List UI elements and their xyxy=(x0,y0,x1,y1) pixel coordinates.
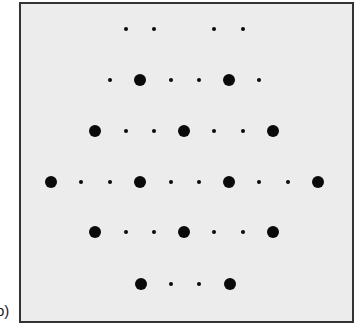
bright-spot xyxy=(89,125,101,137)
faint-spot xyxy=(124,27,128,31)
faint-spot xyxy=(124,129,128,133)
faint-spot xyxy=(212,27,216,31)
faint-spot xyxy=(197,78,201,82)
faint-spot xyxy=(124,230,128,234)
bright-spot xyxy=(178,226,190,238)
bright-spot xyxy=(267,125,279,137)
faint-spot xyxy=(286,180,290,184)
faint-spot xyxy=(79,180,83,184)
bright-spot xyxy=(223,176,235,188)
faint-spot xyxy=(197,180,201,184)
bright-spot xyxy=(178,125,190,137)
faint-spot xyxy=(169,282,173,286)
bright-spot xyxy=(224,278,236,290)
bright-spot xyxy=(89,226,101,238)
bright-spot xyxy=(134,74,146,86)
bright-spot xyxy=(45,176,57,188)
faint-spot xyxy=(241,230,245,234)
faint-spot xyxy=(241,27,245,31)
diffraction-pattern-frame xyxy=(19,2,354,323)
faint-spot xyxy=(152,230,156,234)
faint-spot xyxy=(108,180,112,184)
faint-spot xyxy=(257,180,261,184)
faint-spot xyxy=(108,78,112,82)
faint-spot xyxy=(152,129,156,133)
panel-label: b) xyxy=(0,302,9,320)
bright-spot xyxy=(267,226,279,238)
bright-spot xyxy=(134,176,146,188)
bright-spot xyxy=(223,74,235,86)
bright-spot xyxy=(135,278,147,290)
faint-spot xyxy=(152,27,156,31)
bright-spot xyxy=(312,176,324,188)
faint-spot xyxy=(212,230,216,234)
faint-spot xyxy=(169,78,173,82)
faint-spot xyxy=(212,129,216,133)
faint-spot xyxy=(169,180,173,184)
faint-spot xyxy=(241,129,245,133)
faint-spot xyxy=(197,282,201,286)
faint-spot xyxy=(257,78,261,82)
